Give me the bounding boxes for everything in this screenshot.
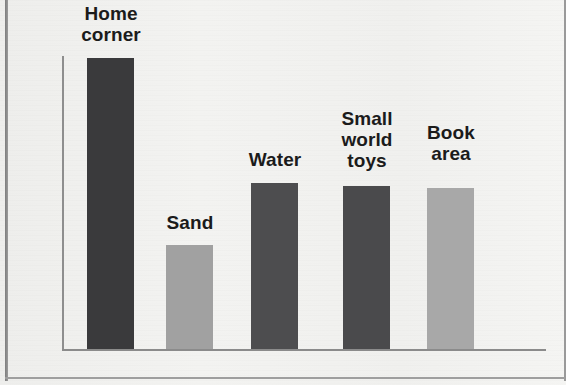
- chart-screenshot: Home cornerSandWaterSmall world toysBook…: [0, 0, 572, 385]
- bar: [427, 188, 474, 349]
- bar-category-label: Book area: [414, 122, 488, 164]
- bar: [251, 183, 298, 349]
- bar: [87, 58, 134, 349]
- y-axis-line: [62, 56, 64, 351]
- bar-category-label: Sand: [153, 212, 227, 233]
- bar-category-label: Small world toys: [330, 108, 404, 171]
- x-axis-baseline: [62, 349, 546, 351]
- bar-category-label: Water: [238, 149, 312, 170]
- bar-chart-plot-area: Home cornerSandWaterSmall world toysBook…: [0, 0, 572, 385]
- bar-category-label: Home corner: [74, 3, 148, 45]
- bar: [343, 186, 390, 349]
- bar: [166, 245, 213, 349]
